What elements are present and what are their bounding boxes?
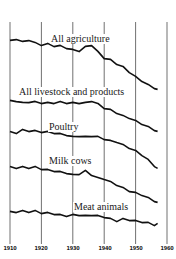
label-milk-cows: Milk cows bbox=[48, 156, 93, 166]
x-tick-1950: 1950 bbox=[130, 245, 143, 251]
x-tick-1940: 1940 bbox=[99, 245, 112, 251]
label-poultry: Poultry bbox=[48, 122, 79, 132]
x-tick-1920: 1920 bbox=[35, 245, 48, 251]
label-all-agriculture: All agriculture bbox=[50, 34, 111, 44]
x-tick-1910: 1910 bbox=[4, 245, 17, 251]
x-tick-1960: 1960 bbox=[161, 245, 174, 251]
label-meat-animals: Meat animals bbox=[73, 202, 129, 212]
label-all-livestock: All livestock and products bbox=[18, 87, 125, 97]
x-tick-1930: 1930 bbox=[67, 245, 80, 251]
